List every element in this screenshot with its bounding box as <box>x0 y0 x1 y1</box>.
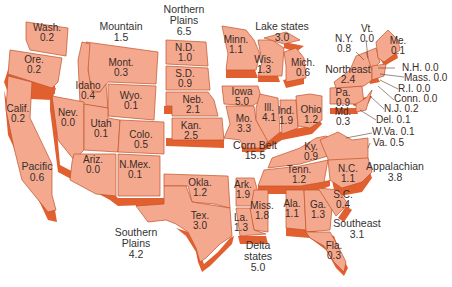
state-label-vt: Vt.0.0 <box>360 24 374 44</box>
state-label-mont: Mont.0.3 <box>108 58 133 78</box>
region-label-lake-states: Lake states3.0 <box>255 21 309 43</box>
state-label-me: Me.0.1 <box>390 36 407 56</box>
state-value: 0.1 <box>90 129 111 139</box>
state-label-wash: Wash.0.2 <box>33 23 61 43</box>
state-value: 0.0 <box>423 93 437 104</box>
state-value: 1.2 <box>188 188 211 198</box>
state-label-va: Va. 0.5 <box>373 138 404 148</box>
region-label-southeast: Southeast3.1 <box>333 218 380 240</box>
region-label-corn-belt: Corn Belt15.5 <box>233 140 277 160</box>
state-label-tenn: Tenn.1.2 <box>287 165 311 185</box>
state-abbr: Va. <box>373 137 387 148</box>
region-label-northeast: Northeast2.4 <box>325 64 371 84</box>
state-value: 1.1 <box>283 209 300 219</box>
state-label-sc: S.C.0.4 <box>333 190 352 210</box>
state-value: 1.2 <box>300 115 321 125</box>
state-label-ariz: Ariz.0.0 <box>83 155 103 175</box>
state-label-okla: Okla.1.2 <box>188 178 211 198</box>
state-label-la: La.1.3 <box>234 213 248 233</box>
state-value: 1.3 <box>234 223 248 233</box>
state-value: 0.2 <box>405 103 419 114</box>
state-value: 0.6 <box>291 68 315 78</box>
region-label-appalachian: Appalachian3.8 <box>366 161 424 183</box>
state-label-kan: Kan.2.5 <box>181 121 202 141</box>
state-label-nd: N.D.1.0 <box>175 43 195 63</box>
state-label-fla: Fla.0.3 <box>326 241 343 261</box>
state-value: 0.2 <box>7 114 30 124</box>
state-value: 1.2 <box>287 175 311 185</box>
state-value: 0.5 <box>390 137 404 148</box>
state-value: 0.8 <box>335 44 353 54</box>
region-value: 2.4 <box>325 74 371 84</box>
state-label-ala: Ala.1.1 <box>283 199 300 219</box>
state-value: 0.9 <box>304 152 318 162</box>
state-value: 0.4 <box>333 200 352 210</box>
state-value: 0.1 <box>390 46 407 56</box>
state-label-iowa: Iowa5.0 <box>231 87 252 107</box>
state-label-mo: Mo.3.3 <box>236 114 253 134</box>
state-value: 3.0 <box>191 221 209 231</box>
state-value: 0.0 <box>83 165 103 175</box>
state-value: 1.3 <box>310 210 326 220</box>
region-value: 5.0 <box>244 262 272 273</box>
state-value: 0.3 <box>335 117 352 127</box>
region-label-northern-plains: NorthernPlains6.5 <box>164 4 205 37</box>
region-value: 4.2 <box>115 249 158 260</box>
state-value: 0.1 <box>120 101 143 111</box>
state-value: 0.3 <box>326 251 343 261</box>
state-value: 4.1 <box>262 113 276 123</box>
state-abbr: N.J. <box>384 103 402 114</box>
state-value: 0.0 <box>360 34 374 44</box>
state-label-pa: Pa.0.9 <box>335 88 350 108</box>
state-label-ill: Ill.4.1 <box>262 103 276 123</box>
state-label-nmex: N.Mex.0.1 <box>119 160 151 180</box>
state-label-miss: Miss.1.8 <box>250 201 273 221</box>
state-value: 1.3 <box>254 65 273 75</box>
state-value: 0.3 <box>108 68 133 78</box>
state-label-minn: Minn.1.1 <box>224 35 248 55</box>
state-value: 2.5 <box>181 131 202 141</box>
state-value: 0.2 <box>33 33 61 43</box>
state-mass-ct-ri <box>372 64 386 80</box>
state-label-ore: Ore.0.2 <box>24 55 43 75</box>
state-value: 5.0 <box>231 97 252 107</box>
state-label-utah: Utah0.1 <box>90 119 111 139</box>
state-value: 1.9 <box>234 190 252 200</box>
region-value: 3.1 <box>333 229 380 240</box>
state-label-wis: Wis.1.3 <box>254 55 273 75</box>
state-value: 0.1 <box>401 126 415 137</box>
state-value: 0.0 <box>58 118 78 128</box>
state-value: 0.2 <box>24 65 43 75</box>
state-label-ind: Ind.1.9 <box>278 106 295 126</box>
state-label-del: Del. 0.1 <box>376 115 410 125</box>
state-label-sd: S.D.0.9 <box>175 69 194 89</box>
region-value: 6.5 <box>164 26 205 37</box>
state-value: 0.5 <box>129 140 152 150</box>
state-label-ohio: Ohio1.2 <box>300 105 321 125</box>
region-label-southern-plains: SouthernPlains4.2 <box>115 227 158 260</box>
state-value: 1.1 <box>338 174 358 184</box>
state-label-colo: Colo.0.5 <box>129 130 152 150</box>
state-value: 1.1 <box>224 45 248 55</box>
state-value: 0.4 <box>75 91 100 101</box>
region-value: 0.6 <box>22 172 53 183</box>
state-label-wva: W.Va. 0.1 <box>372 127 415 137</box>
region-value: 3.8 <box>366 172 424 183</box>
state-value: 0.0 <box>433 72 447 83</box>
state-label-ga: Ga.1.3 <box>310 200 326 220</box>
state-value: 0.1 <box>119 170 151 180</box>
region-value: 3.0 <box>255 32 309 43</box>
state-label-ark: Ark.1.9 <box>234 180 252 200</box>
state-label-nc: N.C.1.1 <box>338 164 358 184</box>
state-value: 0.1 <box>397 114 411 125</box>
state-abbr: Del. <box>376 114 394 125</box>
state-value: 1.9 <box>278 116 295 126</box>
region-value: 15.5 <box>233 150 277 160</box>
region-label-delta-states: Deltastates5.0 <box>244 240 272 273</box>
state-abbr: Mass. <box>404 72 431 83</box>
state-value: 2.1 <box>182 105 203 115</box>
state-value: 3.3 <box>236 124 253 134</box>
state-label-mich: Mich.0.6 <box>291 58 315 78</box>
state-label-nev: Nev.0.0 <box>58 108 78 128</box>
region-label-pacific: Pacific0.6 <box>22 161 53 183</box>
